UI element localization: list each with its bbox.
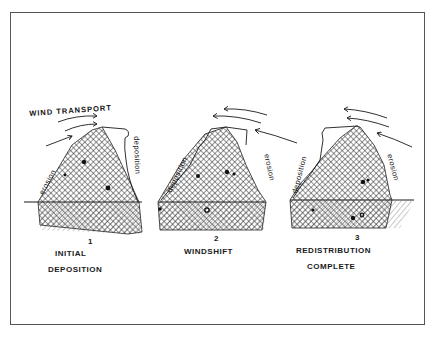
- panel-1-number: 1: [88, 237, 92, 246]
- wind-arrow-icon: [224, 109, 267, 115]
- wind-arrow-icon: [255, 130, 297, 143]
- wind-arrow-icon: [344, 109, 387, 118]
- wind-arrow-icon: [58, 116, 97, 122]
- diagram-artwork: [0, 0, 437, 337]
- panel-1-right-label: deposition: [132, 136, 142, 174]
- wind-arrow-icon: [377, 133, 412, 147]
- panel-3-caption-line1: REDISTRIBUTION: [296, 246, 371, 255]
- panel-1-caption-line1: INITIAL: [55, 249, 87, 258]
- panel-1-caption-line2: DEPOSITION: [48, 265, 102, 274]
- panel-2-number: 2: [214, 234, 218, 243]
- panel-3-caption-line2: COMPLETE: [307, 262, 355, 271]
- wind-arrow-icon: [46, 136, 72, 146]
- panel-1-mound: [24, 116, 142, 234]
- panel-3-number: 3: [355, 233, 359, 242]
- panel-2-caption-line1: WINDSHIFT: [184, 247, 233, 256]
- wind-arrow-icon: [213, 116, 261, 123]
- wind-arrow-icon: [347, 118, 389, 127]
